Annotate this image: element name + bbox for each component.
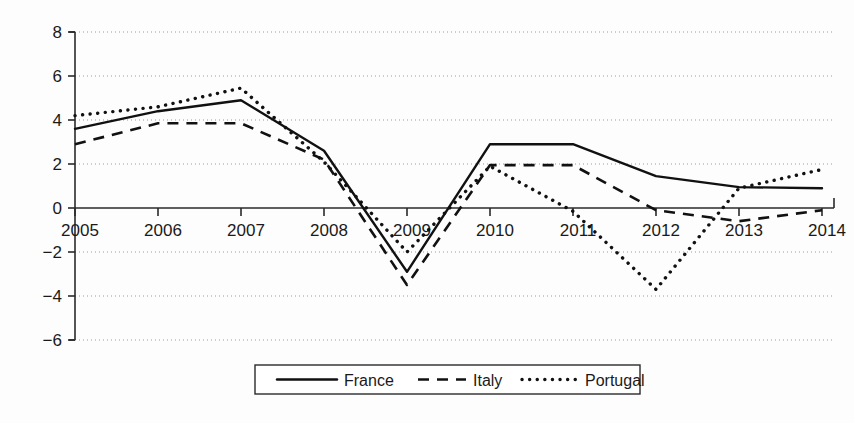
y-axis-tick-label: 0 xyxy=(53,199,62,218)
y-axis-tick-labels: 86420−2−4−6 xyxy=(43,23,62,350)
x-axis-tick-label: 2012 xyxy=(642,221,680,240)
x-axis-tick-label: 2007 xyxy=(227,221,265,240)
y-axis-tick-label: −4 xyxy=(43,287,62,306)
x-axis-tick-label: 2010 xyxy=(476,221,514,240)
axes xyxy=(68,32,834,340)
line-chart: 86420−2−4−6 2005200620072008200920102011… xyxy=(0,0,854,423)
x-axis-tick-label: 2005 xyxy=(61,221,99,240)
y-axis-tick-label: 6 xyxy=(53,67,62,86)
y-axis-tick-label: 8 xyxy=(53,23,62,42)
y-axis-tick-label: 4 xyxy=(53,111,62,130)
legend-label-italy: Italy xyxy=(473,372,502,389)
chart-container: 86420−2−4−6 2005200620072008200920102011… xyxy=(0,0,854,423)
x-axis-tick-label: 2011 xyxy=(560,221,597,240)
series-line-portugal xyxy=(75,88,822,289)
legend-label-portugal: Portugal xyxy=(585,372,645,389)
x-axis-tick-label: 2014 xyxy=(808,221,846,240)
x-axis-tick-label: 2008 xyxy=(310,221,348,240)
x-axis-tick-label: 2009 xyxy=(393,221,431,240)
plot-series-group xyxy=(75,88,822,289)
chart-legend: FranceItalyPortugal xyxy=(255,365,645,394)
y-axis-tick-label: 2 xyxy=(53,155,62,174)
y-axis-tick-label: −2 xyxy=(43,243,62,262)
x-axis-tick-label: 2013 xyxy=(725,221,763,240)
legend-label-france: France xyxy=(344,372,394,389)
x-axis-tick-labels: 2005200620072008200920102011201220132014 xyxy=(61,221,846,240)
series-line-france xyxy=(75,100,822,272)
series-line-italy xyxy=(75,123,822,285)
y-axis-tick-label: −6 xyxy=(43,331,62,350)
gridlines xyxy=(75,32,834,340)
x-axis-tick-label: 2006 xyxy=(144,221,182,240)
